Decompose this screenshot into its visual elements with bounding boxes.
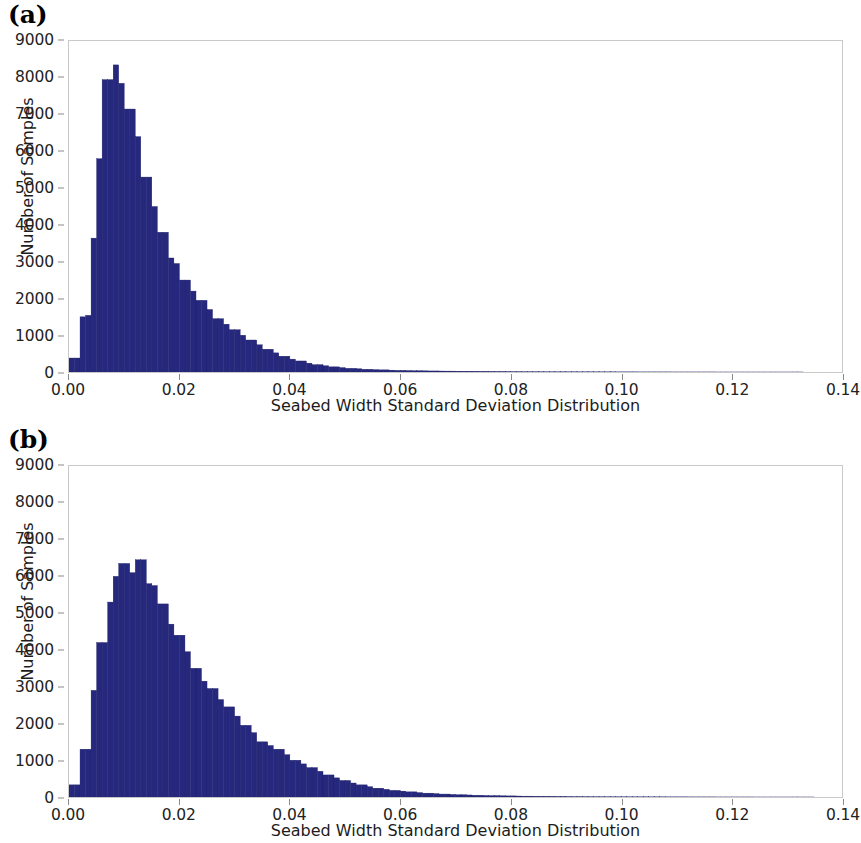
histogram-bar: [235, 716, 241, 797]
histogram-bar: [152, 207, 158, 373]
histogram-bar: [450, 371, 456, 372]
y-tick-mark: [58, 724, 64, 725]
y-tick-label: 9000: [15, 456, 54, 474]
histogram-bar: [108, 80, 114, 372]
y-tick-mark: [58, 613, 64, 614]
histogram-bar: [75, 785, 81, 797]
histogram-bar: [284, 356, 290, 372]
histogram-bar: [301, 764, 307, 797]
histogram-bar: [69, 785, 75, 797]
histogram-bar: [168, 258, 174, 372]
histogram-bar: [373, 370, 379, 372]
histogram-bar: [168, 624, 174, 797]
histogram-bar: [329, 367, 335, 372]
histogram-bar: [472, 371, 478, 372]
panel-b-plot-area: [68, 465, 843, 798]
x-tick-mark: [68, 799, 69, 805]
histogram-bar: [91, 238, 97, 372]
histogram-bar: [400, 370, 406, 372]
panel-b-plot-inner: [69, 466, 842, 797]
histogram-bar: [340, 368, 346, 372]
histogram-bar: [202, 300, 208, 372]
histogram-bar: [500, 371, 506, 372]
histogram-bar: [489, 796, 495, 797]
histogram-bar: [218, 700, 224, 797]
histogram-bar: [124, 109, 130, 372]
histogram-bar: [251, 733, 257, 797]
histogram-bar: [384, 789, 390, 797]
x-tick-mark: [511, 799, 512, 805]
histogram-bar: [257, 742, 263, 797]
histogram-bar: [456, 371, 462, 372]
histogram-bar: [456, 795, 462, 797]
histogram-bar: [295, 361, 301, 372]
histogram-bar: [356, 369, 362, 372]
histogram-bar: [395, 790, 401, 797]
histogram-bar: [450, 794, 456, 797]
histogram-bar: [213, 689, 219, 797]
panel-a-x-axis-title: Seabed Width Standard Deviation Distribu…: [68, 396, 843, 415]
histogram-bar: [80, 317, 86, 372]
x-tick-mark: [511, 374, 512, 380]
histogram-bar: [218, 319, 224, 372]
y-tick-mark: [58, 761, 64, 762]
histogram-bar: [119, 563, 125, 797]
histogram-bar: [86, 315, 92, 372]
histogram-bar: [190, 291, 196, 372]
histogram-bar: [527, 796, 533, 797]
histogram-bar: [373, 788, 379, 797]
histogram-bar: [179, 280, 185, 372]
histogram-bar: [146, 177, 152, 372]
histogram-bar: [406, 792, 412, 797]
histogram-bar: [295, 760, 301, 797]
histogram-bar: [312, 365, 318, 372]
histogram-bar: [351, 783, 357, 797]
y-tick-mark: [58, 262, 64, 263]
histogram-bar: [323, 775, 329, 797]
histogram-bar: [500, 796, 506, 797]
x-tick-mark: [843, 799, 844, 805]
panel-a: (a) 010002000300040005000600070008000900…: [0, 0, 861, 418]
y-tick-label: 1000: [15, 752, 54, 770]
histogram-bar: [174, 264, 180, 372]
histogram-bar: [240, 725, 246, 797]
histogram-bar: [91, 690, 97, 797]
histogram-bar: [196, 300, 202, 372]
histogram-bar: [240, 335, 246, 372]
x-tick-mark: [400, 799, 401, 805]
histogram-bar: [135, 137, 141, 372]
histogram-bar: [367, 369, 373, 372]
histogram-bar: [80, 749, 86, 797]
histogram-bar: [334, 778, 340, 797]
histogram-bar: [439, 371, 445, 372]
histogram-bar: [417, 371, 423, 372]
histogram-bar: [433, 794, 439, 797]
x-tick-mark: [289, 799, 290, 805]
histogram-bar: [207, 689, 213, 797]
histogram-bar: [472, 795, 478, 797]
x-tick-mark: [843, 374, 844, 380]
histogram-bar: [362, 369, 368, 372]
histogram-bar: [185, 280, 191, 372]
histogram-bar: [179, 635, 185, 797]
histogram-bar: [279, 356, 285, 372]
histogram-bar: [389, 790, 395, 797]
histogram-bar: [439, 794, 445, 797]
y-tick-label: 0: [44, 789, 54, 807]
x-tick-mark: [179, 799, 180, 805]
histogram-bar: [135, 560, 141, 797]
histogram-bar: [433, 371, 439, 372]
histogram-bar: [516, 796, 522, 797]
y-tick-label: 1000: [15, 327, 54, 345]
y-tick-mark: [58, 151, 64, 152]
histogram-bar: [444, 794, 450, 797]
histogram-bar: [97, 643, 103, 797]
histogram-bar: [323, 366, 329, 372]
histogram-bar: [367, 787, 373, 797]
histogram-bar: [522, 796, 528, 797]
histogram-bar: [533, 796, 539, 797]
histogram-bar: [262, 349, 268, 372]
y-tick-label: 0: [44, 364, 54, 382]
x-tick-mark: [400, 374, 401, 380]
histogram-bar: [284, 755, 290, 797]
